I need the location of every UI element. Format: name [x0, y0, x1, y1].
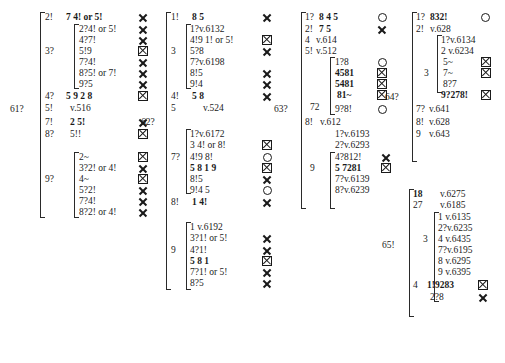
entry-text: 8!5: [190, 68, 203, 79]
entry-key: 8!: [171, 197, 179, 208]
entry-text: v.612: [320, 117, 341, 128]
entry-text: 8?7: [443, 79, 457, 90]
entry-symbol-boxed-cross: [262, 163, 272, 174]
entry-key: 1?: [305, 12, 314, 23]
entry-symbol-cross: [138, 57, 147, 68]
entry-symbol-boxed-cross: [138, 152, 148, 163]
entry-key: 5!: [45, 103, 53, 114]
inner-bracket-63-b: [330, 152, 331, 209]
entry-text: 1?v.6172: [190, 129, 224, 140]
entry-key: 8!: [416, 117, 424, 128]
entry-key: 4: [305, 35, 310, 46]
entry-text: 2?4! or 5!: [79, 24, 116, 35]
entry-text: 2?8: [430, 292, 444, 303]
entry-text: 5!!: [70, 129, 81, 140]
entry-text: 8?5! or 7!: [79, 68, 116, 79]
entry-text: 5 8 1 9: [190, 163, 216, 174]
entry-symbol-boxed-cross: [481, 90, 491, 101]
inner-bracket-62-a: [186, 24, 187, 89]
entry-text: 9!4: [190, 79, 203, 90]
entry-text: 8!5: [190, 174, 203, 185]
entry-text: 9?5: [79, 79, 93, 90]
entry-text: 5481: [335, 79, 354, 90]
entry-symbol-boxed-cross: [377, 68, 387, 79]
group-label-65: 65!: [382, 240, 395, 251]
entry-symbol-cross: [262, 174, 271, 185]
entry-symbol-cross: [262, 245, 271, 256]
entry-text: 832!: [430, 12, 447, 23]
entry-symbol-boxed-cross: [377, 79, 387, 90]
entry-key: 9?: [45, 174, 54, 185]
entry-key: 3: [171, 46, 176, 57]
entry-symbol-cross: [262, 79, 271, 90]
entry-symbol-boxed-cross: [481, 68, 491, 79]
entry-key: 9: [171, 245, 176, 256]
entry-symbol-boxed-cross: [478, 280, 488, 291]
entry-text: 2?v.6235: [438, 223, 472, 234]
entry-text: 5 7281: [335, 163, 361, 174]
group-label-62: 62?: [141, 117, 155, 128]
entry-symbol-cross: [262, 267, 271, 278]
inner-bracket-64-a: [437, 35, 438, 93]
entry-symbol-cross: [262, 68, 271, 79]
entry-key: 1!: [171, 12, 179, 23]
entry-text: 8 5: [192, 12, 204, 23]
entry-symbol-cross: [381, 152, 390, 163]
entry-text: 1?v.6134: [441, 35, 475, 46]
entry-text: 7?v.6195: [438, 245, 472, 256]
entry-text: 8?v.6239: [335, 185, 369, 196]
entry-text: 9 v.6395: [438, 267, 471, 278]
entry-text: 4?812!: [335, 152, 361, 163]
entry-symbol-cross: [262, 91, 271, 102]
entry-text: 4?1!: [190, 245, 207, 256]
entry-symbol-circle: [263, 152, 272, 163]
group-label-61: 61?: [10, 104, 24, 115]
scanned-page: 61? 2! 7 4! or 5! 2?4! or 5! 4?7! 3? 5!9…: [0, 0, 505, 363]
entry-symbol-cross: [138, 79, 147, 90]
entry-text: 4 v.6435: [438, 234, 471, 245]
entry-symbol-boxed-cross: [262, 35, 272, 46]
entry-text: 9?278!: [441, 90, 468, 101]
entry-text: v.6275: [440, 189, 466, 200]
entry-text: 4!9 1! or 5!: [190, 35, 234, 46]
entry-text: 4!9 8!: [190, 152, 213, 163]
entry-symbol-cross: [262, 12, 271, 23]
entry-text: 7?4!: [79, 57, 96, 68]
entry-text: 1 v.6135: [438, 212, 471, 223]
entry-text: v.6185: [440, 200, 466, 211]
entry-symbol-circle: [378, 57, 387, 68]
entry-text: 9!4 5: [190, 185, 210, 196]
entry-symbol-boxed-cross: [138, 174, 148, 185]
entry-symbol-circle: [378, 104, 387, 115]
entry-text: 8?5: [190, 278, 204, 289]
entry-key: 9: [416, 129, 421, 140]
entry-text: 2 v.6234: [441, 46, 474, 57]
entry-text: 7?v.6139: [335, 174, 369, 185]
entry-key: 3: [423, 234, 428, 245]
entry-key: 4: [413, 280, 418, 291]
outer-bracket-63: [301, 12, 302, 209]
entry-key: 72: [310, 102, 320, 113]
group-label-64: 64?: [385, 92, 399, 103]
entry-text: 5 8 1: [190, 256, 209, 267]
entry-text: v.614: [316, 35, 337, 46]
entry-symbol-cross: [262, 46, 271, 57]
entry-key: 7?: [171, 152, 180, 163]
entry-text: 1 v.6192: [190, 222, 223, 233]
entry-key: 5!: [305, 46, 313, 57]
entry-text: v.516: [70, 103, 91, 114]
entry-symbol-cross: [262, 278, 271, 289]
entry-symbol-boxed-cross: [262, 256, 272, 267]
entry-text: 1!9283: [427, 280, 454, 291]
entry-text: 4~: [79, 174, 89, 185]
entry-text: 4?7!: [79, 35, 96, 46]
entry-symbol-circle: [481, 12, 490, 23]
entry-symbol-cross: [138, 207, 147, 218]
entry-text: v.512: [316, 46, 337, 57]
entry-text: 2?v.6293: [335, 140, 369, 151]
entry-text: 7?1! or 5!: [190, 267, 227, 278]
entry-text: v.643: [429, 129, 450, 140]
entry-text: 8?2! or 4!: [79, 207, 116, 218]
entry-text: 1?8: [335, 57, 349, 68]
inner-bracket-61-a: [74, 24, 75, 89]
